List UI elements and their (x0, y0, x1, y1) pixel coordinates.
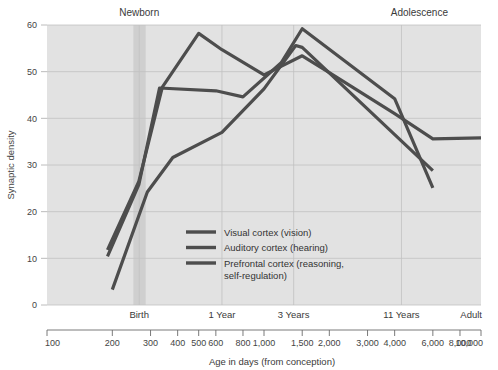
stage-label-1-year: 1 Year (208, 309, 235, 320)
x-tick-label-600: 600 (208, 338, 223, 348)
x-tick-label-200: 200 (105, 338, 120, 348)
stage-label-birth: Birth (129, 309, 149, 320)
legend-label-1: Auditory cortex (hearing) (224, 242, 328, 253)
x-tick-label-6000: 6,000 (422, 338, 445, 348)
y-tick-label-20: 20 (27, 207, 37, 217)
x-tick-label-2000: 2,000 (318, 338, 341, 348)
legend-label-2-line2: self-regulation) (224, 270, 287, 281)
y-tick-label-50: 50 (27, 67, 37, 77)
chart-canvas: 0102030405060 NewbornAdolescence Birth1 … (0, 0, 498, 370)
x-tick-label-10000: 10,000 (455, 338, 483, 348)
legend-label-0: Visual cortex (vision) (224, 227, 311, 238)
x-tick-label-1500: 1,500 (291, 338, 314, 348)
x-tick-label-800: 800 (235, 338, 250, 348)
stage-label-11-years: 11 Years (383, 309, 420, 320)
stage-label-3-years: 3 Years (278, 309, 310, 320)
y-tick-label-10: 10 (27, 254, 37, 264)
x-tick-label-100: 100 (45, 338, 60, 348)
x-tick-label-4000: 4,000 (383, 338, 406, 348)
y-tick-label-30: 30 (27, 160, 37, 170)
x-tick-label-1000: 1,000 (253, 338, 276, 348)
x-tick-label-3000: 3,000 (356, 338, 379, 348)
legend-label-2: Prefrontal cortex (reasoning, (224, 258, 344, 269)
top-annotation-newborn: Newborn (119, 7, 159, 18)
y-tick-label-40: 40 (27, 114, 37, 124)
y-axis-title: Synaptic density (5, 130, 16, 199)
x-tick-label-500: 500 (191, 338, 206, 348)
y-tick-label-60: 60 (27, 20, 37, 30)
y-tick-label-0: 0 (32, 300, 37, 310)
stage-label-adult: Adult (460, 309, 482, 320)
top-annotation-adolescence: Adolescence (391, 7, 449, 18)
x-axis-title: Age in days (from conception) (209, 356, 335, 367)
synaptic-density-chart: 0102030405060 NewbornAdolescence Birth1 … (0, 0, 498, 370)
x-tick-label-300: 300 (143, 338, 158, 348)
x-tick-label-400: 400 (170, 338, 185, 348)
